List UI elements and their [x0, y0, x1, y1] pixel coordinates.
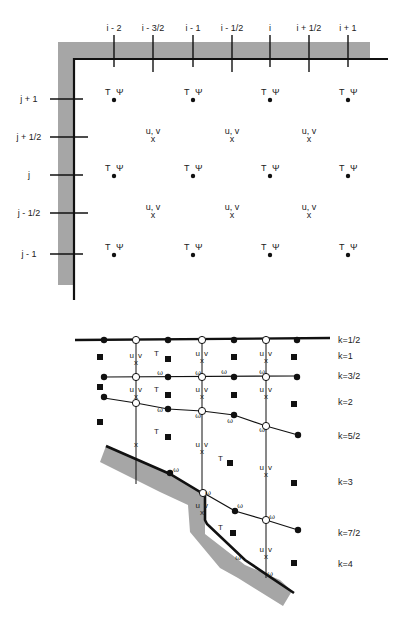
T-label: T [184, 163, 190, 173]
omega-label: ω [157, 369, 163, 377]
velocity-point: x [307, 134, 312, 144]
scalar-point [268, 98, 272, 102]
omega-point [101, 394, 107, 400]
omega-point [295, 527, 301, 533]
scalar-point [268, 174, 272, 178]
j-label: j - 1/2 [17, 208, 41, 218]
omega-label: ω [267, 570, 273, 578]
level-line [202, 492, 298, 530]
uv-marker: x [200, 356, 204, 365]
T-label: T [261, 163, 267, 173]
v-label: v [138, 385, 142, 394]
psi-label: Ψ [116, 87, 124, 97]
T-label: T [184, 242, 190, 252]
v-label: v [204, 440, 208, 449]
v-label: v [138, 351, 142, 360]
scalar-point [191, 253, 195, 257]
T-label: T [339, 242, 345, 252]
scalar-point [112, 98, 116, 102]
omega-label: ω [237, 502, 243, 510]
k-label: k=3/2 [338, 371, 360, 381]
T-label: T [218, 523, 223, 532]
intersection-point [262, 336, 269, 343]
psi-label: Ψ [195, 87, 203, 97]
psi-label: Ψ [350, 163, 358, 173]
vertical-grid-diagram: TTTTTuvxuvxuvxuvxuvxuvxuvxuvxuvxuvxxωωωω… [75, 335, 360, 606]
intersection-point [132, 373, 139, 380]
uv-marker: x [264, 392, 268, 401]
omega-label: ω [205, 489, 211, 497]
omega-label: ω [227, 417, 233, 425]
T-label: T [105, 242, 111, 252]
T-point [291, 560, 297, 566]
omega-point [231, 374, 237, 380]
omega-label: ω [157, 406, 163, 414]
k-label: k=2 [338, 397, 353, 407]
T-point [165, 356, 171, 362]
omega-point [295, 432, 301, 438]
T-label: T [184, 87, 190, 97]
j-label: j + 1/2 [16, 132, 42, 142]
T-point [291, 480, 297, 486]
psi-label: Ψ [350, 87, 358, 97]
T-label: T [339, 163, 345, 173]
diagram-canvas: i - 2i - 3/2i - 1i - 1/2ii + 1/2i + 1 j … [0, 0, 403, 620]
v-label: v [268, 385, 272, 394]
psi-label: Ψ [272, 87, 280, 97]
j-axis-ticks: j + 1j + 1/2jj - 1/2j - 1 [16, 94, 88, 259]
T-point [291, 401, 297, 407]
velocity-point: x [151, 210, 156, 220]
k-label: k=5/2 [338, 431, 360, 441]
j-label: j - 1 [20, 249, 36, 259]
i-label: i + 1 [339, 23, 356, 33]
i-label: i + 1/2 [297, 23, 322, 33]
k-level-labels: k=1/2k=1k=3/2k=2k=5/2k=3k=7/2k=4 [338, 335, 360, 569]
j-label: j + 1 [19, 94, 37, 104]
v-label: v [268, 349, 272, 358]
scalar-point [268, 253, 272, 257]
omega-label: ω [221, 368, 227, 376]
i-label: i - 1 [185, 23, 200, 33]
omega-point [294, 337, 300, 343]
psi-label: Ψ [116, 242, 124, 252]
j-label: j [27, 170, 30, 180]
k-label: k=1 [338, 351, 353, 361]
T-label: T [105, 87, 111, 97]
T-point [97, 419, 103, 425]
scalar-point [112, 174, 116, 178]
T-label: T [105, 163, 111, 173]
scalar-point [346, 98, 350, 102]
omega-label: ω [269, 513, 275, 521]
omega-label: ω [235, 554, 241, 562]
i-label: i [269, 23, 271, 33]
psi-label: Ψ [350, 242, 358, 252]
T-point [230, 530, 236, 536]
T-label: T [154, 385, 159, 394]
T-label: T [261, 87, 267, 97]
omega-point [101, 374, 107, 380]
i-label: i - 3/2 [142, 23, 165, 33]
omega-label: ω [259, 426, 265, 434]
T-label: T [154, 349, 159, 358]
omega-point [165, 337, 171, 343]
T-label: T [261, 242, 267, 252]
T-point [165, 392, 171, 398]
k-label: k=7/2 [338, 528, 360, 538]
omega-point [294, 374, 300, 380]
k-label: k=4 [338, 559, 353, 569]
top-grid-diagram: i - 2i - 3/2i - 1i - 1/2ii + 1/2i + 1 j … [16, 23, 388, 300]
velocity-point: x [307, 210, 312, 220]
uv-marker: x [264, 356, 268, 365]
uv-marker: x [200, 447, 204, 456]
uv-marker: x [200, 508, 204, 517]
T-point [97, 354, 103, 360]
velocity-point: x [151, 134, 156, 144]
scalar-point [191, 174, 195, 178]
scalar-point [346, 174, 350, 178]
scalar-point [346, 253, 350, 257]
v-label: v [268, 545, 272, 554]
velocity-point: x [230, 134, 235, 144]
velocity-point: x [230, 210, 235, 220]
omega-point [101, 337, 107, 343]
psi-label: Ψ [195, 163, 203, 173]
